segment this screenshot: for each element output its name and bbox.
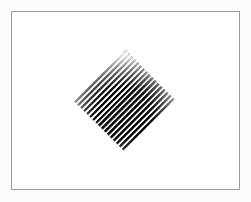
- figure-plot-area: [12, 12, 239, 189]
- figure-panel-frame: [11, 11, 240, 190]
- grating-diamond-patch: [73, 49, 175, 151]
- stimulus-figure: [0, 0, 251, 202]
- grating-stripe-pattern: [73, 49, 175, 151]
